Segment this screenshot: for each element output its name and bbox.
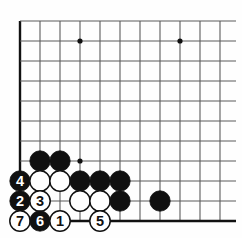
move-number-label: 5 xyxy=(96,213,104,229)
stone-black xyxy=(110,171,130,191)
star-point-icon xyxy=(177,38,182,43)
stone-disc xyxy=(150,191,170,211)
stone-disc xyxy=(30,151,50,171)
star-point-icon xyxy=(77,158,82,163)
stone-black xyxy=(30,151,50,171)
stone-disc xyxy=(70,191,90,211)
stone-black xyxy=(50,151,70,171)
move-number-label: 3 xyxy=(36,193,44,209)
stone-disc xyxy=(70,171,90,191)
stone-disc xyxy=(30,171,50,191)
stone-white xyxy=(50,171,70,191)
go-board-canvas: 4237615 xyxy=(0,0,242,238)
stone-black xyxy=(150,191,170,211)
move-number-label: 4 xyxy=(16,173,24,189)
move-number-label: 1 xyxy=(56,213,64,229)
stone-black-move-2: 2 xyxy=(10,191,30,211)
stone-white-move-3: 3 xyxy=(30,191,50,211)
stone-white xyxy=(70,191,90,211)
stone-disc xyxy=(110,171,130,191)
stone-black xyxy=(110,191,130,211)
stone-disc xyxy=(90,171,110,191)
stone-white-move-5: 5 xyxy=(90,211,110,231)
stone-disc xyxy=(110,191,130,211)
go-board-diagram: 4237615 xyxy=(0,0,242,238)
stone-black xyxy=(70,171,90,191)
move-number-label: 6 xyxy=(36,213,44,229)
move-number-label: 7 xyxy=(16,213,24,229)
stone-white xyxy=(30,171,50,191)
stone-disc xyxy=(50,151,70,171)
stone-white-move-1: 1 xyxy=(50,211,70,231)
star-point-icon xyxy=(77,38,82,43)
move-number-label: 2 xyxy=(16,193,24,209)
stone-black-move-4: 4 xyxy=(10,171,30,191)
stone-black xyxy=(90,171,110,191)
stone-black-move-6: 6 xyxy=(30,211,50,231)
stone-white-move-7: 7 xyxy=(10,211,30,231)
stone-disc xyxy=(90,191,110,211)
stone-disc xyxy=(50,171,70,191)
stone-white xyxy=(90,191,110,211)
